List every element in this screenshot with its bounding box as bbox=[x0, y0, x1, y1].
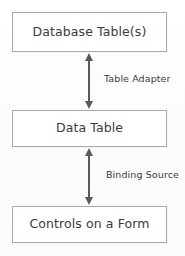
arrow-table-adapter bbox=[85, 53, 93, 109]
arrow-shaft bbox=[88, 58, 90, 104]
node-database-tables-label: Database Table(s) bbox=[33, 26, 147, 39]
arrow-binding-source bbox=[85, 148, 93, 205]
arrowhead-down-icon bbox=[85, 197, 93, 205]
node-data-table[interactable]: Data Table bbox=[12, 110, 167, 147]
node-controls-on-a-form-label: Controls on a Form bbox=[29, 218, 149, 231]
node-data-table-label: Data Table bbox=[56, 122, 123, 135]
arrow-shaft bbox=[88, 153, 90, 200]
node-database-tables[interactable]: Database Table(s) bbox=[12, 12, 167, 52]
arrowhead-down-icon bbox=[85, 101, 93, 109]
node-controls-on-a-form[interactable]: Controls on a Form bbox=[12, 206, 167, 243]
diagram-canvas: Database Table(s) Table Adapter Data Tab… bbox=[0, 0, 185, 256]
edge-label-binding-source: Binding Source bbox=[106, 170, 179, 180]
edge-label-table-adapter: Table Adapter bbox=[104, 74, 171, 84]
